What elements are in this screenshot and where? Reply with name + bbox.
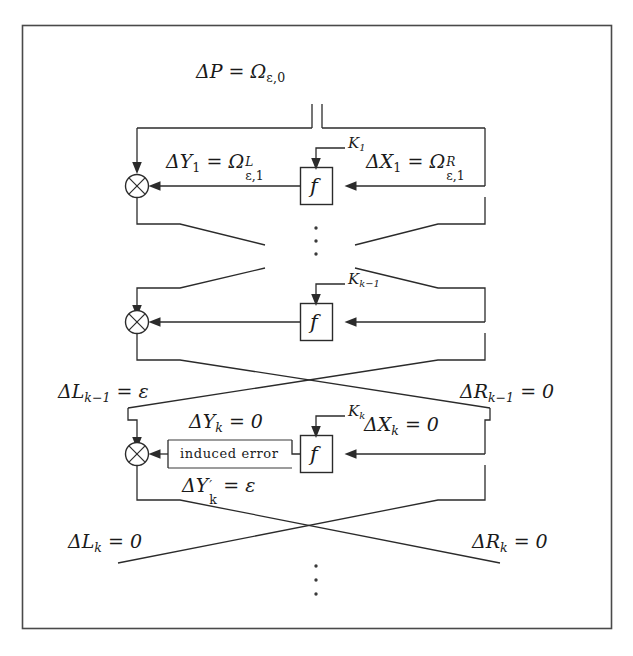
bottom-left-equals: = 0 — [102, 530, 142, 552]
round1-key-label: K1 — [348, 136, 366, 153]
round1-left-rail — [132, 128, 142, 174]
arrowhead-into-xor-k — [149, 449, 161, 459]
round1-omega-subscript: ε,1 — [245, 170, 263, 183]
mid-right-text: ΔR — [460, 380, 488, 402]
plaintext-difference-label: ΔP = Ωε,0 — [196, 62, 285, 84]
round1-key-subscript: 1 — [359, 142, 365, 153]
arrowhead-into-f-k — [345, 449, 357, 459]
round1-omega-superscript: L — [245, 156, 253, 168]
roundk-right-input-label: ΔXk = 0 — [364, 415, 439, 437]
key-wire-roundkm1 — [311, 284, 345, 306]
round1-fout-wire — [149, 181, 301, 191]
crossover-km1 — [128, 333, 490, 408]
roundk-dx-equals: = 0 — [399, 413, 439, 435]
xor-node-roundk — [126, 443, 149, 466]
f-glyph-roundk: f — [310, 442, 318, 466]
round1-omega-r-superscript: R — [446, 156, 455, 168]
roundk-fin-wire — [345, 449, 486, 459]
roundk-induced-output-label: ΔY′k = ε — [182, 476, 255, 495]
roundkm1-key-subscript: k−1 — [359, 278, 380, 289]
roundk-key-subscript: k — [359, 410, 365, 421]
roundk-key-text: K — [348, 402, 359, 420]
round1-dy-equals: = Ω — [200, 150, 244, 172]
bottom-left-text: ΔL — [68, 530, 94, 552]
bottom-right-equals: = 0 — [508, 530, 548, 552]
roundk-dy-equals: = 0 — [223, 410, 263, 432]
bottom-right-text: ΔR — [472, 530, 500, 552]
roundk-left-output-label: ΔYk = 0 — [189, 412, 263, 434]
round1-left-output-label: ΔY1 = ΩLε,1 — [166, 152, 244, 174]
round1-dx-text: ΔX — [366, 150, 393, 172]
roundk-dyprime-subscript: k — [209, 494, 217, 507]
roundk-dx-text: ΔX — [364, 413, 391, 435]
right-half-diff-k-label: ΔRk = 0 — [472, 532, 548, 554]
roundkm1-fin-wire — [345, 317, 486, 327]
round1-dx-equals: = Ω — [401, 150, 445, 172]
ellipsis-lower-dots — [314, 564, 317, 595]
mid-left-equals: = ε — [110, 380, 148, 402]
left-half-diff-k-label: ΔLk = 0 — [68, 532, 142, 554]
mid-right-subscript: k−1 — [488, 390, 514, 405]
roundkm1-fout-wire — [149, 317, 301, 327]
roundk-dyprime-equals: = ε — [217, 474, 255, 496]
roundkm1-key-text: K — [348, 270, 359, 288]
round1-right-input-label: ΔX1 = ΩRε,1 — [366, 152, 445, 174]
mid-left-text: ΔL — [58, 380, 84, 402]
arrowhead-xor1-top — [132, 162, 142, 174]
figure-root: ΔP = Ωε,0 ΔY1 = ΩLε,1 ΔX1 = ΩRε,1 K1 f K… — [0, 0, 633, 656]
roundk-key-label: Kk — [348, 404, 365, 421]
mid-left-subscript: k−1 — [84, 390, 110, 405]
roundk-dyprime-text: ΔY — [182, 474, 208, 496]
right-half-diff-km1-label: ΔRk−1 = 0 — [460, 382, 554, 404]
arrowhead-into-f1 — [345, 181, 357, 191]
ellipsis-upper-dots — [314, 226, 317, 255]
roundkm1-key-label: Kk−1 — [348, 272, 380, 289]
roundk-dyprime-prime: ′ — [209, 480, 212, 492]
xor-node-roundkm1 — [126, 311, 149, 334]
plaintext-diff-text: ΔP = Ω — [196, 60, 266, 82]
round1-omega-r-subscript: ε,1 — [446, 170, 464, 183]
round1-fin-wire — [345, 181, 486, 191]
induced-error-label: induced error — [180, 447, 279, 460]
bottom-right-subscript: k — [500, 540, 508, 555]
arrowhead-into-xor-km1 — [149, 317, 161, 327]
plaintext-split-wires — [137, 104, 485, 128]
f-glyph-round1: f — [310, 174, 318, 198]
mid-right-equals: = 0 — [514, 380, 554, 402]
roundk-dx-subscript: k — [391, 423, 399, 438]
round1-key-text: K — [348, 134, 359, 152]
left-half-diff-km1-label: ΔLk−1 = ε — [58, 382, 149, 404]
arrowhead-into-f-km1 — [345, 317, 357, 327]
roundk-dy-subscript: k — [215, 420, 223, 435]
round1-dy-text: ΔY — [166, 150, 192, 172]
roundk-dy-text: ΔY — [189, 410, 215, 432]
f-glyph-roundkm1: f — [310, 310, 318, 334]
key-wire-roundk — [311, 416, 345, 438]
key-wire-round1 — [311, 148, 345, 170]
plaintext-diff-subscript: ε,0 — [266, 70, 285, 85]
arrowhead-into-xor1 — [149, 181, 161, 191]
xor-node-round1 — [126, 175, 149, 198]
crossover-k — [118, 465, 500, 563]
bottom-left-subscript: k — [94, 540, 102, 555]
